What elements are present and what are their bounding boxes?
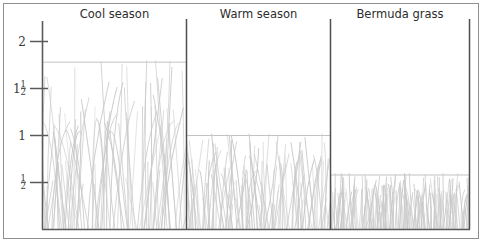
grass-blade <box>459 182 464 230</box>
plot-canvas <box>0 0 483 251</box>
grass-blade <box>145 61 147 230</box>
grass-blade <box>57 162 66 230</box>
grass-blade <box>87 82 109 229</box>
panel-title-cool-season: Cool season <box>43 7 186 21</box>
y-tick-label-1-half: 112 <box>0 80 26 97</box>
y-axis-ticks <box>30 42 48 183</box>
grass-blade <box>119 124 128 230</box>
grass-blade <box>295 171 298 229</box>
grass-blade <box>76 184 83 229</box>
grass-blade <box>443 174 444 230</box>
grass-blade <box>148 162 149 229</box>
grass-panel-cool-season <box>38 61 208 230</box>
grass-blade <box>396 191 397 230</box>
y-tick-label-half: 12 <box>0 174 26 191</box>
grass-blade <box>107 121 108 229</box>
grass-blade <box>255 188 257 229</box>
y-tick-label-2: 2 <box>0 36 26 48</box>
grass-blade <box>173 110 182 230</box>
grass-blade <box>274 191 278 230</box>
y-tick-label-1: 1 <box>0 130 26 142</box>
panel-title-warm-season: Warm season <box>187 7 330 21</box>
grass-blade <box>182 71 184 229</box>
grass-height-diagram: 2 112 1 12 Cool season Warm season Bermu… <box>0 0 483 251</box>
grass-texture-layer <box>38 61 469 230</box>
grass-blade <box>137 113 156 229</box>
panel-title-bermuda-grass: Bermuda grass <box>331 7 469 21</box>
grass-panel-warm-season <box>179 134 335 230</box>
grass-panel-bermuda-grass <box>329 174 469 230</box>
